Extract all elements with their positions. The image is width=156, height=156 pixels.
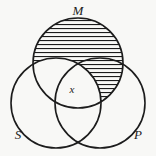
existential-x-marker: x — [69, 83, 75, 95]
set-label-s: S — [15, 127, 22, 142]
region-m-and-p-not-s-hatched — [0, 0, 156, 156]
venn-diagram-figure: M S P x — [0, 0, 156, 156]
set-label-m: M — [72, 3, 85, 18]
set-label-p: P — [133, 127, 142, 142]
venn-diagram-canvas: M S P x — [0, 0, 156, 156]
